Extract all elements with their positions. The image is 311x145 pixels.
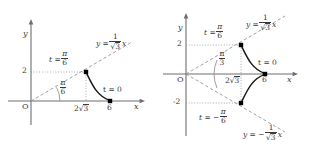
y-axis-arrowhead (184, 13, 189, 18)
y-axis-label: y (23, 30, 28, 38)
point-marker-t-neg-pi-over-6 (239, 101, 243, 105)
line-eq-upper-lhs: y = (246, 20, 259, 29)
t-pi-denominator: 6 (61, 59, 68, 67)
y-axis-label: y (178, 24, 183, 32)
y-tick-label-2: 2 (177, 40, 182, 48)
angle-denominator: 6 (60, 88, 67, 96)
line-eq-numerator: 1 (109, 33, 121, 42)
label-line-equation-upper: y =1√3x (96, 33, 126, 51)
y-axis-arrowhead (29, 19, 34, 24)
x-axis-arrowhead (140, 99, 145, 104)
label-line-equation-upper: y =1√3x (246, 14, 276, 32)
x-axis-arrowhead (293, 72, 298, 77)
x-tick-label-6: 6 (107, 104, 112, 112)
t-equals-neg-prefix: t = − (199, 113, 219, 122)
label-line-equation-lower: y = −1√3x (243, 124, 282, 142)
line-eq-rhs: x (122, 39, 126, 48)
y-tick-label-neg2: -2 (173, 98, 180, 106)
line-eq-lower-lhs: y = − (243, 130, 265, 139)
panel-right: y x O 2 -2 2√3 6 t =π6 t = −π6 t = 0 π3 … (155, 0, 311, 145)
x-axis-label: x (134, 103, 139, 111)
t-equals-prefix: t = (49, 55, 61, 64)
x-tick-label-2sqrt3: 2√3 (225, 76, 240, 85)
label-t-zero: t = 0 (258, 59, 277, 67)
y-tick-label-2: 2 (22, 67, 27, 75)
line-eq-upper-numerator: 1 (259, 14, 271, 23)
label-angle-pi-over-3: π3 (218, 50, 226, 67)
panel-left: y x O 2 2√3 6 t =π6 t = 0 π6 y =1√3x (0, 0, 155, 145)
label-t-neg-pi-over-6: t = −π6 (199, 108, 227, 125)
origin-label: O (22, 103, 29, 111)
line-eq-lower-rhs: x (278, 130, 282, 139)
figure-root: y x O 2 2√3 6 t =π6 t = 0 π6 y =1√3x (0, 0, 311, 145)
label-t-zero: t = 0 (103, 86, 122, 94)
x-tick-radicand: 3 (83, 104, 89, 113)
point-marker-t-pi-over-6 (239, 43, 243, 47)
t-pi-denominator: 6 (216, 32, 223, 40)
point-marker-t-pi-over-6 (84, 70, 88, 74)
x-tick-label-2sqrt3: 2√3 (74, 104, 89, 113)
t-equals-prefix: t = (204, 28, 216, 37)
label-angle-pi-over-6: π6 (59, 79, 67, 96)
line-eq-upper-rhs: x (272, 20, 276, 29)
angle-denominator: 3 (219, 59, 226, 67)
line-eq-denominator: √3 (109, 42, 121, 51)
t-neg-pi-denominator: 6 (220, 117, 227, 125)
label-t-pi-over-6: t =π6 (204, 23, 224, 40)
x-axis-label: x (287, 76, 292, 84)
line-eq-lhs: y = (96, 39, 109, 48)
x-tick-label-6: 6 (262, 76, 267, 84)
label-t-pi-over-6: t =π6 (49, 50, 69, 67)
origin-label: O (177, 76, 184, 84)
line-eq-upper-denominator: √3 (259, 23, 271, 32)
line-eq-lower-denominator: √3 (265, 133, 277, 142)
panel-right-graphic (155, 0, 311, 145)
line-eq-lower-numerator: 1 (265, 124, 277, 133)
x-tick-radicand: 3 (234, 76, 240, 85)
